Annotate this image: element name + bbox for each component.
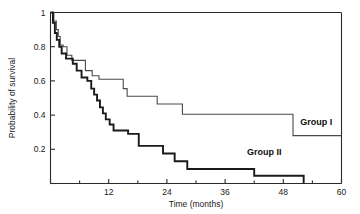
y-tick-label: 0.8 <box>34 42 46 52</box>
series-labels-group: Group IGroup II <box>247 117 332 158</box>
survival-curve-group-ii <box>51 13 304 184</box>
survival-curve-figure: 0.20.40.60.81 1224364860 Group IGroup II… <box>0 0 360 214</box>
series-label-group-i: Group I <box>300 117 332 127</box>
y-tick-label: 1 <box>41 8 46 18</box>
y-tick-label: 0.2 <box>34 144 46 154</box>
curves-group <box>51 13 342 184</box>
y-tick-labels: 0.20.40.60.81 <box>34 8 46 155</box>
tick-marks-group <box>51 13 342 184</box>
y-axis-title: Probability of survival <box>7 58 17 138</box>
y-tick-label: 0.4 <box>34 110 46 120</box>
axes-group <box>51 13 342 184</box>
x-tick-label: 48 <box>279 187 289 197</box>
x-tick-label: 36 <box>220 187 230 197</box>
x-tick-label: 24 <box>162 187 172 197</box>
x-tick-label: 12 <box>104 187 114 197</box>
series-label-group-ii: Group II <box>247 147 281 157</box>
x-tick-labels: 1224364860 <box>104 187 347 197</box>
x-axis-title: Time (months) <box>169 199 224 209</box>
survival-curve-group-i <box>51 13 342 136</box>
x-tick-label: 60 <box>337 187 347 197</box>
plot-canvas: 0.20.40.60.81 1224364860 Group IGroup II… <box>0 0 360 214</box>
y-tick-label: 0.6 <box>34 76 46 86</box>
